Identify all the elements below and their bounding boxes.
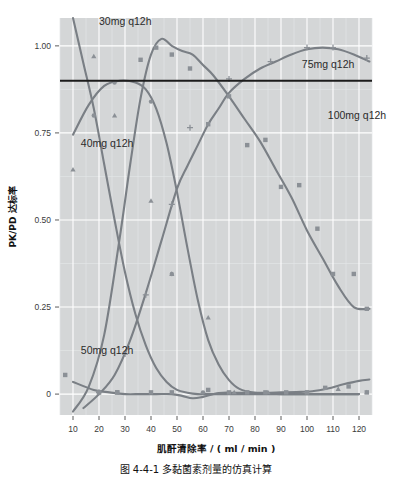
data-point-marker	[346, 384, 350, 388]
data-point-marker	[323, 386, 327, 390]
x-tick-label: 110	[326, 424, 340, 434]
data-point-marker	[170, 52, 174, 56]
x-tick-label: 30	[120, 424, 130, 434]
data-point-marker	[365, 390, 369, 394]
data-point-marker	[63, 373, 67, 377]
y-tick-label: 0.25	[34, 302, 51, 312]
data-point-marker	[170, 272, 174, 276]
x-axis-label: 肌酐清除率 / ( ml / min )	[156, 443, 276, 454]
data-point-marker	[263, 138, 267, 142]
data-point-marker	[206, 388, 210, 392]
data-point-marker	[227, 94, 231, 98]
x-tick-label: 20	[94, 424, 104, 434]
y-tick-label: 0.75	[34, 128, 51, 138]
series-annotation: 75mg q12h	[302, 58, 355, 70]
data-point-marker	[279, 185, 283, 189]
x-tick-label: 40	[146, 424, 156, 434]
data-point-marker	[352, 272, 356, 276]
y-tick-label: 0.50	[34, 215, 51, 225]
data-point-marker	[245, 143, 249, 147]
data-point-marker	[297, 183, 301, 187]
x-tick-label: 60	[198, 424, 208, 434]
data-point-marker	[149, 99, 153, 103]
data-point-marker	[154, 45, 158, 49]
y-tick-label: 1.00	[34, 41, 51, 51]
data-point-marker	[263, 390, 267, 394]
data-point-marker	[331, 272, 335, 276]
series-annotation: 50mg q12h	[81, 344, 134, 356]
data-point-marker	[149, 390, 153, 394]
series-annotation: 100mg q12h	[328, 109, 387, 121]
x-tick-label: 100	[300, 424, 314, 434]
data-point-marker	[245, 390, 249, 394]
data-point-marker	[284, 390, 288, 394]
data-point-marker	[97, 390, 101, 394]
data-point-marker	[188, 66, 192, 70]
x-tick-label: 120	[352, 424, 366, 434]
x-tick-label: 80	[250, 424, 260, 434]
chart-svg: 102030405060708090100110120 00.250.500.7…	[0, 0, 393, 483]
series-annotation: 40mg q12h	[81, 137, 134, 149]
figure-container: 102030405060708090100110120 00.250.500.7…	[0, 0, 393, 483]
x-tick-label: 50	[172, 424, 182, 434]
x-tick-label: 70	[224, 424, 234, 434]
data-point-marker	[92, 113, 96, 117]
y-axis-label: PK/PD 达标率	[7, 186, 18, 247]
data-point-marker	[115, 390, 119, 394]
data-point-marker	[170, 390, 174, 394]
data-point-marker	[365, 307, 369, 311]
data-point-marker	[315, 226, 319, 230]
x-tick-label: 10	[68, 424, 78, 434]
data-point-marker	[138, 58, 142, 62]
y-tick-label: 0	[46, 389, 51, 399]
data-point-marker	[305, 390, 309, 394]
figure-caption: 图 4-4-1 多黏菌素剂量的仿真计算	[120, 463, 273, 475]
data-point-marker	[227, 390, 231, 394]
series-annotation: 30mg q12h	[99, 15, 152, 27]
data-point-marker	[206, 122, 210, 126]
x-tick-label: 90	[276, 424, 286, 434]
data-point-marker	[201, 390, 205, 394]
